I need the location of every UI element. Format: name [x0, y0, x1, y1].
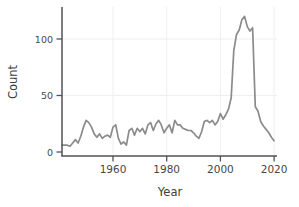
- tick-marks: [57, 39, 275, 162]
- y-tick-label-50: 50: [41, 90, 53, 101]
- x-tick-label-2000: 2000: [207, 163, 234, 175]
- y-tick-label-0: 0: [47, 147, 53, 158]
- data-series-line: [62, 16, 274, 146]
- y-axis-title: Count: [6, 65, 20, 99]
- x-tick-label-2020: 2020: [261, 163, 288, 175]
- chart-canvas: 0 50 100 1960 1980 2000 2020: [0, 0, 299, 207]
- x-tick-label-1980: 1980: [153, 163, 180, 175]
- x-tick-label-1960: 1960: [100, 163, 127, 175]
- y-tick-label-100: 100: [35, 34, 53, 45]
- x-axis-title: Year: [158, 185, 182, 199]
- line-chart: 0 50 100 1960 1980 2000 2020 Count Year: [0, 0, 299, 207]
